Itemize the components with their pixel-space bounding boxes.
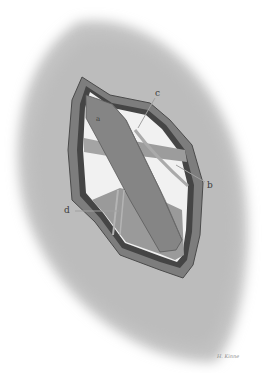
label-c: c <box>155 89 160 98</box>
label-b: b <box>207 181 213 190</box>
label-d: d <box>64 206 70 215</box>
label-a: a <box>96 116 100 123</box>
surgical-illustration <box>0 0 263 373</box>
artist-signature: H. Kinne <box>217 353 239 359</box>
